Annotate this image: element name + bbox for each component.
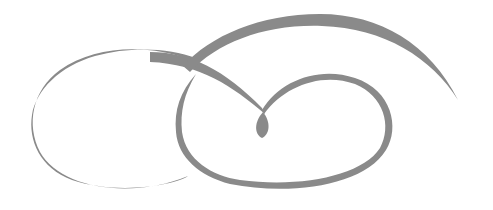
teardrop — [256, 112, 268, 138]
left-loop-stroke — [31, 49, 196, 188]
center-crossing-stroke — [150, 52, 265, 114]
flourish-canvas — [0, 0, 493, 210]
right-inner-loop-stroke — [176, 74, 393, 189]
flourish-ornament-icon — [0, 0, 493, 210]
top-arc-stroke — [183, 14, 458, 100]
